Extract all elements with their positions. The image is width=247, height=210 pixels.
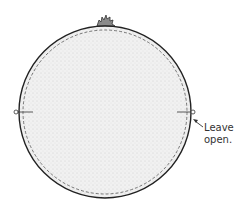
- circle-pattern-diagram: [0, 0, 247, 210]
- fabric-circle: [19, 26, 191, 198]
- annotation-open: open.: [204, 134, 232, 146]
- arrow-icon: [193, 119, 203, 127]
- gathered-tuft: [97, 15, 115, 26]
- annotation-leave: Leave: [204, 122, 234, 134]
